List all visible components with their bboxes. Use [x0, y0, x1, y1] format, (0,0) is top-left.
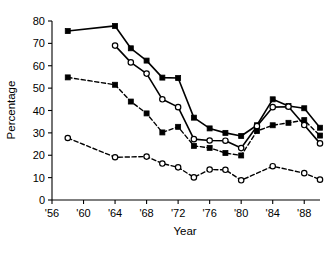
x-axis-title: Year — [173, 225, 196, 237]
data-point-marker — [317, 177, 322, 182]
data-point-marker — [191, 143, 196, 148]
data-point-marker — [207, 126, 212, 131]
y-tick-label: 0 — [39, 194, 45, 206]
data-point-marker — [223, 130, 228, 135]
chart-container: 01020304050607080 '56'60'64'68'72'76'80'… — [0, 0, 328, 255]
data-point-marker — [270, 164, 275, 169]
y-tick-label: 10 — [33, 172, 45, 184]
data-point-marker — [113, 82, 118, 87]
data-point-marker — [302, 170, 307, 175]
y-tick-label: 60 — [33, 60, 45, 72]
data-point-marker — [318, 125, 323, 130]
data-point-marker — [128, 99, 133, 104]
y-axis-title: Percentage — [5, 81, 17, 140]
x-tick-label: '84 — [266, 207, 280, 219]
data-point-marker — [238, 178, 243, 183]
y-tick-label: 40 — [33, 105, 45, 117]
data-point-marker — [128, 46, 133, 51]
data-point-marker — [160, 75, 165, 80]
series-dashed-open-circle — [65, 135, 323, 183]
x-tick-label: '68 — [139, 207, 153, 219]
data-point-marker — [176, 76, 181, 81]
data-point-marker — [270, 123, 275, 128]
data-point-marker — [112, 155, 117, 160]
data-point-marker — [302, 118, 307, 123]
y-tick-label: 80 — [33, 15, 45, 27]
x-axis: '56'60'64'68'72'76'80'84'88 — [45, 200, 320, 219]
data-point-marker — [207, 167, 212, 172]
data-point-marker — [191, 175, 196, 180]
data-point-marker — [254, 123, 259, 128]
data-point-marker — [317, 141, 322, 146]
series-solid-filled-square — [65, 23, 322, 138]
data-point-marker — [254, 129, 259, 134]
x-tick-label: '56 — [45, 207, 59, 219]
data-point-marker — [302, 106, 307, 111]
data-point-marker — [65, 75, 70, 80]
data-point-marker — [65, 29, 70, 34]
line-chart: 01020304050607080 '56'60'64'68'72'76'80'… — [0, 0, 328, 255]
x-tick-label: '72 — [171, 207, 185, 219]
series-layer — [65, 23, 323, 183]
y-axis: 01020304050607080 — [33, 15, 52, 206]
data-point-marker — [223, 167, 228, 172]
data-point-marker — [239, 134, 244, 139]
data-point-marker — [175, 104, 180, 109]
data-point-marker — [239, 153, 244, 158]
y-tick-label: 50 — [33, 82, 45, 94]
data-point-marker — [144, 111, 149, 116]
data-point-marker — [144, 58, 149, 63]
data-point-marker — [175, 165, 180, 170]
data-point-marker — [270, 97, 275, 102]
data-point-marker — [238, 145, 243, 150]
data-point-marker — [160, 130, 165, 135]
x-tick-label: '80 — [234, 207, 248, 219]
x-tick-label: '88 — [297, 207, 311, 219]
data-point-marker — [270, 104, 275, 109]
y-tick-label: 30 — [33, 127, 45, 139]
data-point-marker — [286, 120, 291, 125]
data-point-marker — [302, 122, 307, 127]
data-point-marker — [176, 124, 181, 129]
x-tick-label: '64 — [108, 207, 122, 219]
data-point-marker — [223, 151, 228, 156]
data-point-marker — [207, 145, 212, 150]
data-point-marker — [286, 104, 291, 109]
data-point-marker — [144, 71, 149, 76]
data-point-marker — [160, 161, 165, 166]
x-tick-label: '60 — [76, 207, 90, 219]
x-tick-label: '76 — [202, 207, 216, 219]
data-point-marker — [191, 115, 196, 120]
data-point-marker — [128, 60, 133, 65]
data-point-marker — [160, 97, 165, 102]
data-point-marker — [191, 136, 196, 141]
data-point-marker — [223, 138, 228, 143]
data-point-marker — [207, 138, 212, 143]
y-tick-label: 20 — [33, 149, 45, 161]
data-point-marker — [112, 43, 117, 48]
data-point-marker — [113, 23, 118, 28]
y-tick-label: 70 — [33, 37, 45, 49]
data-point-marker — [144, 154, 149, 159]
data-point-marker — [318, 133, 323, 138]
data-point-marker — [65, 135, 70, 140]
